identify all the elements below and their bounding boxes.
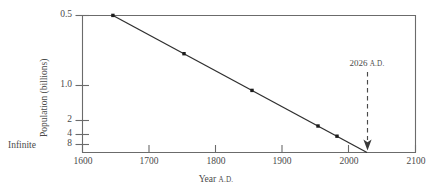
- x-tick-label-1800: 1800: [196, 157, 236, 167]
- annotation-arrow: [363, 72, 371, 151]
- data-point: [182, 52, 185, 55]
- y-axis-infinite-label: Infinite: [8, 141, 36, 151]
- x-tick-label-1700: 1700: [129, 157, 169, 167]
- y-tick-label-1-0: 1.0: [46, 80, 72, 90]
- data-point: [111, 14, 114, 17]
- x-tick-label-2100: 2100: [396, 157, 436, 167]
- x-tick-label-2000: 2000: [329, 157, 369, 167]
- y-tick-label-0-5: 0.5: [46, 10, 72, 20]
- data-point: [250, 89, 253, 92]
- data-point: [316, 124, 319, 127]
- plot-frame: [83, 16, 416, 153]
- x-tick-label-1900: 1900: [262, 157, 302, 167]
- x-axis-title-era: A.D.: [219, 176, 234, 184]
- y-axis-title: Population (billions): [40, 59, 50, 137]
- x-tick-label-1600: 1600: [63, 157, 103, 167]
- y-tick-label-2: 2: [46, 115, 72, 125]
- annotation-era: A.D.: [370, 60, 385, 68]
- annotation-year: 2026: [349, 58, 367, 68]
- x-axis-title: Year A.D.: [199, 175, 234, 185]
- y-tick-label-8: 8: [46, 139, 72, 149]
- chart-figure: 0.5 1.0 2 4 8 Infinite Population (billi…: [0, 0, 448, 194]
- x-axis-title-main: Year: [199, 174, 217, 184]
- annotation-label-2026: 2026 A.D.: [349, 59, 384, 68]
- data-point: [335, 135, 338, 138]
- data-series-line: [113, 16, 367, 153]
